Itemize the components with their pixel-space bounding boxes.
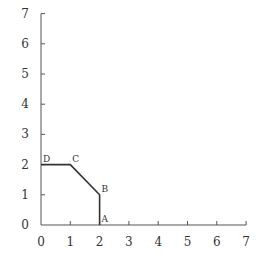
point-label-d: D — [43, 154, 50, 164]
chart-canvas: 0123456701234567 DCBA — [0, 0, 263, 265]
y-tick-label: 4 — [21, 97, 29, 111]
y-tick-label: 2 — [21, 158, 29, 172]
x-tick-label: 3 — [125, 235, 133, 249]
x-tick-label: 0 — [37, 235, 45, 249]
point-label-c: C — [72, 154, 79, 164]
boundary-polyline — [41, 165, 100, 225]
y-tick-label: 7 — [21, 7, 29, 21]
y-tick-label: 3 — [21, 127, 29, 141]
point-label-a: A — [101, 214, 109, 224]
x-tick-label: 2 — [96, 235, 104, 249]
point-label-b: B — [102, 184, 109, 194]
x-tick-label: 4 — [154, 235, 162, 249]
y-tick-label: 1 — [21, 188, 29, 202]
y-tick-label: 6 — [21, 37, 29, 51]
axis-ticks: 0123456701234567 — [21, 7, 250, 249]
y-tick-label: 0 — [21, 218, 29, 232]
boundary-line — [41, 165, 100, 225]
x-tick-label: 5 — [184, 235, 192, 249]
x-tick-label: 7 — [242, 235, 250, 249]
y-tick-label: 5 — [21, 67, 29, 81]
x-tick-label: 1 — [66, 235, 74, 249]
x-tick-label: 6 — [213, 235, 221, 249]
axes — [41, 14, 246, 225]
